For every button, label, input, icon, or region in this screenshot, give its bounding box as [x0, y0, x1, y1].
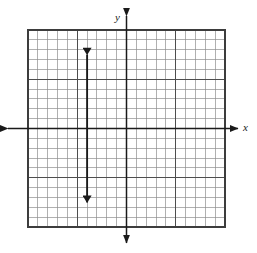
y-axis-label: y — [114, 11, 120, 23]
graph-figure: x y — [0, 0, 257, 253]
canvas-background — [0, 0, 257, 253]
x-axis-label: x — [242, 121, 248, 133]
coordinate-plane-svg: x y — [0, 0, 257, 253]
